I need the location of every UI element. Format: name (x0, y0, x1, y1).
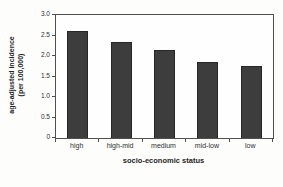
y-tick-mark (52, 137, 55, 138)
y-tick-mark (52, 55, 55, 56)
x-axis-title: socio-economic status (55, 156, 272, 165)
x-tick-mark (185, 139, 186, 142)
y-axis-title: age-adjusted incidence (per 100,000) (7, 36, 25, 113)
bar-mid-low (197, 62, 218, 138)
y-tick-label-0.5: 0.5 (34, 113, 50, 121)
y-tick-mark (52, 117, 55, 118)
x-tick-mark (142, 139, 143, 142)
y-tick-label-2.5: 2.5 (34, 31, 50, 39)
x-tick-label-high-mid: high-mid (98, 141, 142, 150)
bar-chart-figure: age-adjusted incidence (per 100,000) soc… (0, 0, 283, 187)
x-tick-label-mid-low: mid-low (185, 141, 229, 150)
y-tick-label-3.0: 3.0 (34, 10, 50, 18)
y-tick-mark (52, 96, 55, 97)
y-tick-label-0: 0 (34, 133, 50, 141)
plot-area (55, 14, 274, 139)
x-tick-label-medium: medium (142, 141, 186, 150)
x-tick-mark (55, 139, 56, 142)
bar-medium (154, 50, 175, 138)
x-tick-mark (272, 139, 273, 142)
y-tick-mark (52, 14, 55, 15)
y-tick-label-2.0: 2.0 (34, 51, 50, 59)
bar-high-mid (111, 42, 132, 138)
x-tick-label-low: low (228, 141, 272, 150)
bar-high (67, 31, 88, 138)
y-tick-label-1.0: 1.0 (34, 92, 50, 100)
y-tick-label-1.5: 1.5 (34, 72, 50, 80)
y-axis-title-line2: (per 100,000) (16, 36, 25, 113)
bar-low (241, 66, 262, 138)
y-axis-title-line1: age-adjusted incidence (7, 36, 16, 113)
y-tick-mark (52, 76, 55, 77)
x-tick-mark (98, 139, 99, 142)
x-tick-mark (229, 139, 230, 142)
y-tick-mark (52, 35, 55, 36)
x-tick-label-high: high (55, 141, 99, 150)
